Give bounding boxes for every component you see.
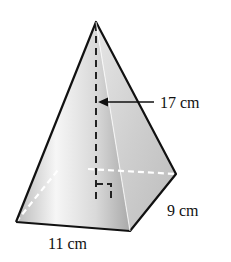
- pyramid-diagram: 17 cm 9 cm 11 cm: [0, 0, 231, 262]
- width-label: 11 cm: [48, 235, 88, 252]
- depth-label: 9 cm: [167, 202, 199, 219]
- pyramid-svg: 17 cm 9 cm 11 cm: [0, 0, 231, 262]
- height-label: 17 cm: [160, 94, 200, 111]
